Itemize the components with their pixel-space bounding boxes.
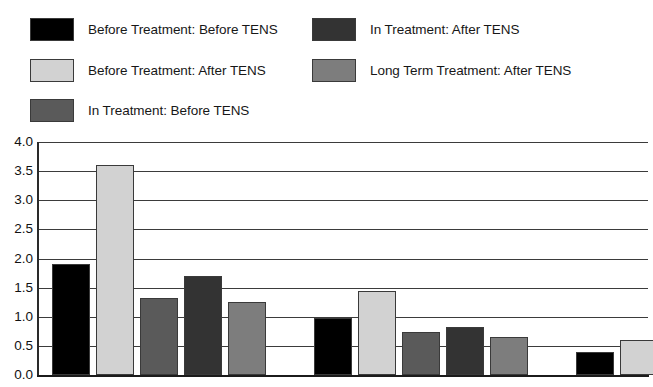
bar <box>402 332 440 375</box>
legend-label: Before Treatment: After TENS <box>88 64 266 78</box>
legend-label: Long Term Treatment: After TENS <box>370 64 571 78</box>
legend-item-before-treatment-after-tens: Before Treatment: After TENS <box>30 59 266 82</box>
legend-swatch-in-treatment-before-tens <box>30 99 74 122</box>
bar <box>228 302 266 375</box>
bar <box>96 165 134 375</box>
bar <box>184 276 222 375</box>
bar <box>490 337 528 375</box>
legend-swatch-before-treatment-after-tens <box>30 59 74 82</box>
bar <box>620 340 653 375</box>
legend-item-in-treatment-after-tens: In Treatment: After TENS <box>312 18 519 41</box>
legend-label: In Treatment: After TENS <box>370 23 519 37</box>
legend-item-long-term-treatment-after-tens: Long Term Treatment: After TENS <box>312 59 571 82</box>
legend-swatch-in-treatment-after-tens <box>312 18 356 41</box>
x-axis-line <box>37 375 649 377</box>
legend-item-before-treatment-before-tens: Before Treatment: Before TENS <box>30 18 278 41</box>
bar-chart-plot: 0.00.51.01.52.02.53.03.54.0 <box>0 131 653 387</box>
legend-swatch-long-term-treatment-after-tens <box>312 59 356 82</box>
bar <box>358 291 396 375</box>
bars-layer <box>0 131 653 387</box>
chart-legend: Before Treatment: Before TENS Before Tre… <box>0 0 653 131</box>
legend-swatch-before-treatment-before-tens <box>30 18 74 41</box>
bar <box>446 327 484 375</box>
legend-label: Before Treatment: Before TENS <box>88 23 278 37</box>
bar <box>140 298 178 375</box>
bar <box>52 264 90 375</box>
legend-label: In Treatment: Before TENS <box>88 104 249 118</box>
legend-item-in-treatment-before-tens: In Treatment: Before TENS <box>30 99 249 122</box>
bar <box>314 318 352 375</box>
bar <box>576 352 614 375</box>
